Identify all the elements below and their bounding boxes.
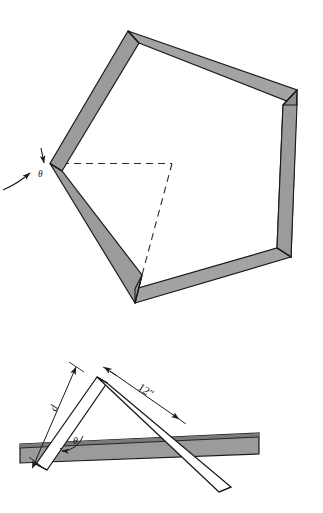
theta-label-top: θ [38, 169, 43, 179]
miter-joint-leader [3, 173, 30, 190]
diagram-svg: θ [0, 0, 323, 513]
dimension-d-label: d [47, 403, 60, 413]
frame-strip-top-right [128, 31, 297, 105]
dimension-d-ext-upper [69, 362, 84, 372]
pentagon-frame: θ [3, 31, 297, 303]
figure-root: θ [0, 0, 323, 513]
strip-right [97, 377, 231, 492]
frame-strip-bottom-right [135, 248, 291, 303]
dashed-diagonal [142, 164, 172, 276]
dimension-12in-label: 12″ [136, 381, 156, 400]
miter-joint-arrow [41, 148, 44, 163]
frame-strip-right-bevel [277, 105, 297, 257]
frame-strip-top-left [50, 31, 139, 171]
frame-strip-bottom-left [50, 164, 142, 304]
theta-label-bottom: θ [73, 435, 78, 446]
miter-detail: d 12″ θ [20, 362, 259, 492]
